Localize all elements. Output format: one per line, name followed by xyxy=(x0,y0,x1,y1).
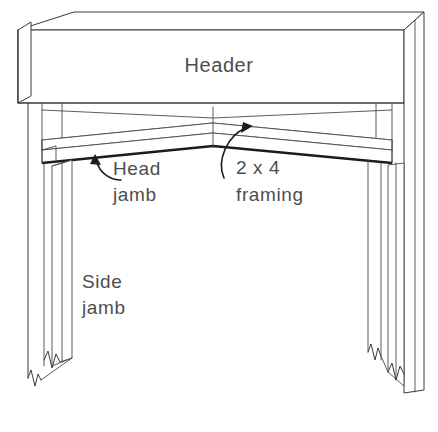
label-framing-line1: 2 x 4 xyxy=(236,157,280,178)
right-bottom-edge-a xyxy=(381,356,388,372)
header-top-face xyxy=(18,12,424,30)
left-break-mark-outer xyxy=(28,370,41,386)
door-framing-diagram: Header Head jamb 2 x 4 framing Side jamb xyxy=(0,0,438,432)
label-head-jamb-line2: jamb xyxy=(112,184,157,205)
label-header: Header xyxy=(184,54,253,76)
right-outer-stud xyxy=(404,12,424,393)
framing-v-upper-back xyxy=(42,110,392,118)
right-break-mark-outer xyxy=(368,344,381,360)
header-left-endcap xyxy=(18,22,31,103)
label-side-jamb-line1: Side xyxy=(82,271,122,292)
label-head-jamb-line1: Head xyxy=(113,158,161,179)
label-framing-line2: framing xyxy=(236,184,304,205)
right-side-jamb-assembly xyxy=(368,160,404,386)
label-side-jamb-line2: jamb xyxy=(81,297,126,318)
diagram-canvas: Header Head jamb 2 x 4 framing Side jamb xyxy=(0,0,438,432)
